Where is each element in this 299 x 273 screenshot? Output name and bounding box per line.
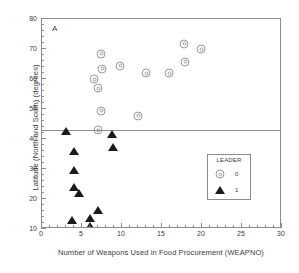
legend-entry[interactable]: 1 — [208, 183, 250, 197]
x-tick-label: 20 — [197, 230, 205, 237]
legend-entry-label: 1 — [235, 187, 238, 193]
x-tick-label: 10 — [117, 230, 125, 237]
data-point — [181, 57, 190, 66]
y-tick-major — [41, 228, 46, 229]
reference-line — [42, 130, 280, 131]
data-point — [98, 64, 107, 73]
x-tick-label: 0 — [39, 230, 43, 237]
data-point — [93, 206, 103, 214]
x-tick-major — [281, 223, 282, 228]
x-tick-label: 25 — [237, 230, 245, 237]
data-point — [180, 39, 189, 48]
legend-title: LEADER — [208, 157, 250, 163]
data-point — [85, 222, 95, 227]
data-point — [134, 111, 143, 120]
panel-label: A — [52, 24, 58, 33]
legend-entry[interactable]: 0 — [208, 167, 250, 181]
data-point — [165, 69, 174, 78]
data-point — [107, 130, 117, 138]
data-point — [142, 69, 151, 78]
data-point — [97, 49, 106, 58]
circle-marker-icon — [216, 170, 225, 179]
x-tick-label: 15 — [157, 230, 165, 237]
x-tick-label: 30 — [277, 230, 285, 237]
x-axis-title: Number of Weapons Used in Food Procureme… — [41, 248, 281, 257]
data-point — [94, 84, 103, 93]
data-point — [69, 166, 79, 174]
triangle-marker-icon — [215, 186, 225, 194]
data-point — [61, 127, 71, 135]
data-point — [94, 126, 103, 135]
data-point — [69, 147, 79, 155]
legend: LEADER 01 — [207, 154, 251, 200]
scatter-plot-figure: A 051015202530 1020304050607080 Number o… — [0, 0, 299, 273]
data-point — [85, 214, 95, 222]
data-point — [74, 189, 84, 197]
data-point — [90, 75, 99, 84]
data-point — [97, 106, 106, 115]
legend-entry-label: 0 — [235, 171, 238, 177]
data-point — [67, 216, 77, 224]
data-point — [108, 143, 118, 151]
data-point — [197, 45, 206, 54]
data-point — [116, 61, 125, 70]
x-tick-label: 5 — [79, 230, 83, 237]
y-tick-label: 80 — [21, 15, 37, 22]
y-axis-title: Latitude (North and South) (degrees) — [31, 23, 40, 233]
